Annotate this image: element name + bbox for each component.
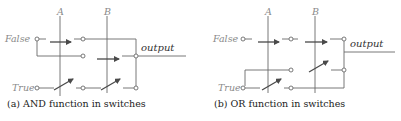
label-true: True (218, 82, 241, 93)
switch-a-true (54, 79, 73, 90)
switch-a-true (262, 79, 281, 90)
label-b: B (311, 6, 319, 17)
and-circuit: A B output False True (4, 6, 186, 96)
label-true: True (12, 82, 35, 93)
label-b: B (103, 6, 111, 17)
terminal-output (134, 54, 138, 58)
switch-b-true (309, 61, 328, 72)
terminal-true (241, 86, 245, 90)
terminal-output (342, 37, 346, 41)
caption-and: (a) AND function in switches (7, 98, 146, 109)
label-a: A (264, 6, 272, 17)
terminal-false (35, 37, 39, 41)
output-label: output (141, 42, 175, 53)
terminal-false (241, 37, 245, 41)
output-label: output (350, 38, 384, 49)
or-circuit: A B output False True (212, 6, 395, 93)
label-false: False (4, 33, 31, 44)
switch-b-true (101, 79, 120, 90)
caption-or: (b) OR function in switches (214, 98, 345, 109)
label-a: A (56, 6, 64, 17)
terminal-true (35, 86, 39, 90)
label-false: False (212, 33, 239, 44)
